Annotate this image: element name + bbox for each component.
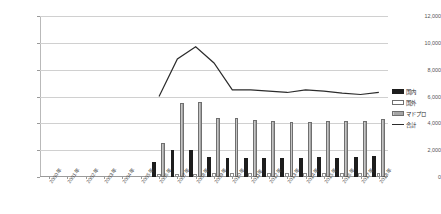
y-axis-tick-mark [37, 16, 40, 17]
y-axis-tick-mark [37, 123, 40, 124]
legend-item-goukei[interactable]: 合計 [392, 119, 441, 130]
y-axis-tick-mark [37, 70, 40, 71]
total-line-series [40, 16, 388, 177]
chart-root: 02,0004,0006,0008,00010,00012,000 2000年2… [0, 0, 441, 214]
chart-title [4, 0, 154, 7]
y-axis-tick-label: 8,000 [405, 67, 441, 73]
legend-item-kokunai[interactable]: 国内 [392, 86, 441, 97]
legend-item-madopro[interactable]: マドプロ [392, 108, 441, 119]
y-axis-tick-label: 0 [405, 174, 441, 180]
y-axis-tick-label: 12,000 [405, 13, 441, 19]
legend-swatch-madopro [392, 111, 404, 116]
legend-label: 国内 [406, 88, 416, 96]
y-axis-tick-label: 10,000 [405, 40, 441, 46]
legend-swatch-kokunai [392, 89, 404, 94]
total-line-path [159, 47, 379, 97]
y-axis-tick-label: 2,000 [405, 147, 441, 153]
y-axis-tick-mark [37, 97, 40, 98]
legend-swatch-goukei [392, 122, 404, 127]
legend-item-kokugai[interactable]: 国外 [392, 97, 441, 108]
y-axis-tick-mark [37, 150, 40, 151]
legend-label: 合計 [406, 121, 416, 129]
legend-label: 国外 [406, 99, 416, 107]
legend-label: マドプロ [406, 110, 426, 118]
legend-swatch-kokugai [392, 100, 404, 105]
y-axis-tick-mark [37, 177, 40, 178]
chart-legend: 国内国外マドプロ合計 [392, 86, 441, 130]
y-axis-tick-mark [37, 43, 40, 44]
